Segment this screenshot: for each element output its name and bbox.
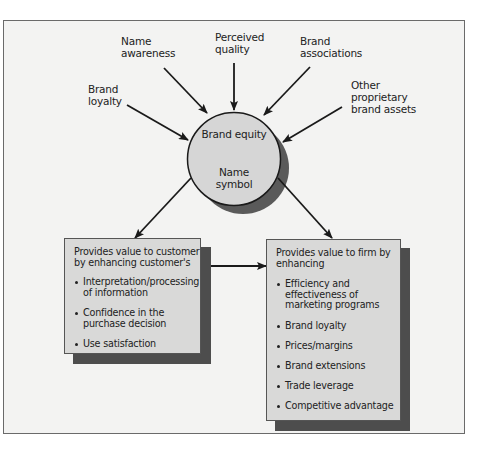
label-other-assets: Other proprietary brand assets (351, 79, 416, 115)
list-item: Use satisfaction (74, 339, 200, 350)
center-subtitle-line1: Name (194, 166, 274, 178)
center-title: Brand equity (194, 128, 274, 140)
customer-benefits-list: Interpretation/processing of information… (74, 277, 200, 349)
center-subtitle-line2: symbol (194, 178, 274, 190)
label-name-awareness: Name awareness (121, 35, 175, 59)
arrow-other-assets (283, 107, 342, 142)
heading-line: by enhancing customer's (74, 258, 200, 269)
label-line: Brand (88, 83, 122, 95)
arrow-name-awareness (164, 68, 207, 113)
label-line: quality (215, 43, 264, 55)
label-line: proprietary (351, 91, 416, 103)
arrow-to-firm-box (278, 178, 332, 238)
brand-equity-circle (188, 113, 281, 206)
arrows-layer (0, 0, 491, 450)
label-line: Other (351, 79, 416, 91)
list-item: Competitive advantage (276, 401, 400, 412)
heading-line: Provides value to firm by (276, 248, 400, 259)
heading-line: enhancing (276, 259, 400, 270)
list-item: Brand extensions (276, 361, 400, 372)
label-brand-associations: Brand associations (300, 35, 362, 59)
arrow-to-customer-box (135, 178, 191, 238)
label-line: Name (121, 35, 175, 47)
firm-value-box: Provides value to firm by enhancing Effi… (266, 239, 401, 421)
center-subtitle: Name symbol (194, 166, 274, 190)
list-item: Efficiency and effectiveness of marketin… (276, 279, 400, 311)
label-line: associations (300, 47, 362, 59)
label-line: loyalty (88, 95, 122, 107)
label-line: Perceived (215, 31, 264, 43)
customer-value-box: Provides value to customer by enhancing … (64, 238, 201, 354)
label-line: awareness (121, 47, 175, 59)
arrow-brand-associations (264, 67, 310, 115)
customer-box-heading: Provides value to customer by enhancing … (74, 247, 200, 268)
heading-line: Provides value to customer (74, 247, 200, 258)
list-item: Prices/margins (276, 341, 400, 352)
list-item: Brand loyalty (276, 321, 400, 332)
firm-box-heading: Provides value to firm by enhancing (276, 248, 400, 269)
label-perceived-quality: Perceived quality (215, 31, 264, 55)
label-line: Brand (300, 35, 362, 47)
arrow-brand-loyalty (127, 105, 188, 140)
label-brand-loyalty: Brand loyalty (88, 83, 122, 107)
label-line: brand assets (351, 103, 416, 115)
list-item: Confidence in the purchase decision (74, 308, 200, 329)
list-item: Interpretation/processing of information (74, 277, 200, 298)
firm-benefits-list: Efficiency and effectiveness of marketin… (276, 279, 400, 412)
list-item: Trade leverage (276, 381, 400, 392)
